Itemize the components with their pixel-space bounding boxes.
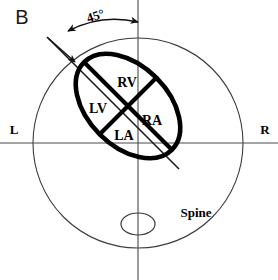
orientation-label-right: R bbox=[260, 122, 270, 137]
figure-panel-b: RV LV RA LA 45° L R Spine B bbox=[0, 0, 278, 280]
chamber-label-rv: RV bbox=[117, 75, 137, 90]
spine-label: Spine bbox=[180, 205, 211, 220]
heart-long-axis-line bbox=[47, 37, 179, 169]
angle-arc-double-arrow bbox=[68, 19, 138, 31]
chamber-label-lv: LV bbox=[89, 101, 107, 116]
panel-letter-b: B bbox=[15, 6, 28, 28]
angle-reference-tick bbox=[48, 38, 75, 62]
angle-label-45deg: 45° bbox=[85, 6, 107, 26]
orientation-label-left: L bbox=[10, 122, 19, 137]
chamber-label-ra: RA bbox=[142, 113, 163, 128]
thorax-cross-section-diagram: RV LV RA LA 45° L R Spine B bbox=[0, 0, 278, 280]
chamber-label-la: LA bbox=[114, 128, 134, 143]
heart-outline-group bbox=[56, 34, 200, 178]
